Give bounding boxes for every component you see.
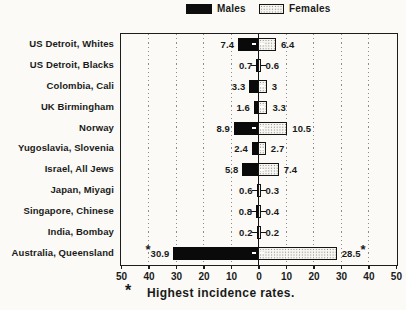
gridline — [313, 34, 314, 265]
asterisk-icon: * — [125, 282, 131, 300]
category-label: Israel, All Jews — [45, 163, 114, 174]
axis-tick — [396, 265, 397, 269]
category-label: Singapore, Chinese — [24, 205, 115, 216]
female-value-label: 0.2 — [266, 227, 280, 238]
female-bar — [258, 247, 336, 260]
female-bar — [258, 122, 287, 135]
male-value-label: 0.2 — [239, 227, 253, 238]
female-value-label: 28.5* — [342, 248, 366, 259]
male-value-label: 2.4 — [234, 143, 248, 154]
gridline — [341, 34, 342, 265]
bar-tick-dash — [260, 169, 264, 171]
bar-tick-dash — [260, 252, 264, 254]
female-value-label: 3.3 — [272, 102, 286, 113]
female-value-label: 10.5 — [292, 123, 311, 134]
bar-tick-dash — [260, 148, 264, 150]
gridline — [286, 34, 287, 265]
female-bar — [258, 142, 265, 155]
bar-tick-dash — [260, 127, 264, 129]
male-value-label: 5.8 — [225, 164, 239, 175]
male-bar — [173, 247, 258, 260]
male-value-label: 0.6 — [239, 185, 253, 196]
male-bar — [242, 163, 258, 176]
female-bar — [258, 38, 276, 51]
gridline — [203, 34, 204, 265]
axis-tick — [286, 265, 287, 269]
category-label: Australia, Queensland — [12, 247, 114, 258]
female-bar — [258, 101, 267, 114]
male-value-label: 0.7 — [239, 60, 253, 71]
category-label: Norway — [79, 122, 114, 133]
male-bar — [238, 38, 258, 51]
gridline — [368, 34, 369, 265]
axis-tick — [341, 265, 342, 269]
female-bar — [258, 80, 266, 93]
female-value-label: 6.4 — [281, 39, 295, 50]
bar-tick-dash — [252, 43, 256, 45]
category-label: US Detroit, Whites — [29, 38, 114, 49]
females-legend-label: Females — [289, 3, 330, 14]
gridline — [231, 34, 232, 265]
bar-tick-dash — [260, 106, 264, 108]
axis-tick — [121, 265, 122, 269]
plot-area: 7.46.40.70.63.331.63.38.910.52.42.75.87.… — [120, 33, 398, 266]
asterisk-icon: * — [361, 242, 366, 257]
male-value-label: 8.9 — [216, 123, 230, 134]
males-legend-label: Males — [217, 3, 246, 14]
bar-tick-dash — [252, 127, 256, 129]
category-label: US Detroit, Blacks — [30, 59, 114, 70]
axis-tick — [148, 265, 149, 269]
legend: Males Females — [0, 0, 406, 20]
axis-tick — [203, 265, 204, 269]
bar-tick-dash — [260, 43, 264, 45]
females-legend-swatch — [259, 4, 284, 14]
bar-tick-dash — [252, 252, 256, 254]
bar-tick-dash — [260, 85, 264, 87]
female-value-label: 2.7 — [271, 143, 285, 154]
male-value-label: 1.6 — [236, 102, 250, 113]
female-value-label: 0.4 — [266, 206, 280, 217]
male-bar — [249, 80, 258, 93]
gridline — [176, 34, 177, 265]
footnote-text: Highest incidence rates. — [147, 286, 295, 300]
male-value-label: 7.4 — [221, 39, 235, 50]
axis-tick — [231, 265, 232, 269]
axis-tick — [368, 265, 369, 269]
axis-tick — [313, 265, 314, 269]
female-value-label: 0.3 — [266, 185, 280, 196]
males-legend-swatch — [186, 4, 212, 14]
male-value-label: 3.3 — [232, 81, 246, 92]
female-value-label: 0.6 — [266, 60, 280, 71]
category-label: Yugoslavia, Slovenia — [18, 142, 114, 153]
female-bar — [258, 163, 278, 176]
category-label: Colombia, Cali — [47, 80, 114, 91]
footnote: * Highest incidence rates. — [0, 281, 406, 305]
incidence-rates-chart: Males Females US Detroit, WhitesUS Detro… — [0, 0, 406, 310]
category-axis-labels: US Detroit, WhitesUS Detroit, BlacksColo… — [0, 33, 114, 266]
axis-tick — [258, 265, 259, 269]
category-label: UK Birmingham — [41, 101, 114, 112]
female-value-label: 3 — [272, 81, 277, 92]
male-bar — [252, 142, 259, 155]
category-label: Japan, Miyagi — [50, 184, 114, 195]
axis-tick — [176, 265, 177, 269]
gridline — [148, 34, 149, 265]
category-label: India, Bombay — [48, 226, 114, 237]
asterisk-icon: * — [145, 242, 150, 257]
male-value-label: 0.8 — [239, 206, 253, 217]
male-value-label: *30.9 — [145, 248, 169, 259]
male-bar — [234, 122, 258, 135]
female-value-label: 7.4 — [284, 164, 298, 175]
